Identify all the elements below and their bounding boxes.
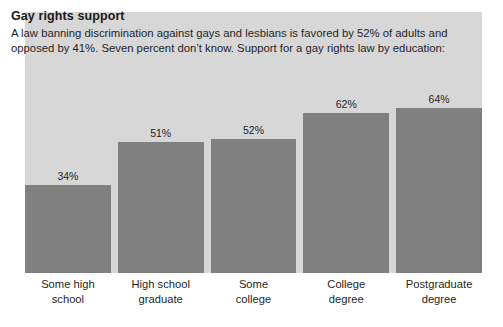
bar-high-school-graduate[interactable] [118,142,204,273]
bar-some-high-school[interactable] [25,185,111,273]
bar-slot-3: 52% [211,85,297,273]
x-axis-label-3-line-1: Some [211,277,297,292]
x-axis-label-2-line-1: High school [118,277,204,292]
chart-subtitle-line-2: opposed by 41%. Seven percent don’t know… [11,41,451,56]
x-axis-label-5-line-1: Postgraduate [396,277,482,292]
bar-some-college[interactable] [211,139,297,273]
bar-value-3: 52% [211,124,297,136]
bar-college-degree[interactable] [303,113,389,273]
bar-value-5: 64% [396,93,482,105]
x-axis-label-1-line-1: Some high [25,277,111,292]
bar-plot-area: 34% 51% 52% 62% 64% [25,85,482,273]
bar-slot-2: 51% [118,85,204,273]
x-axis-label-3: Some college [211,277,297,307]
chart-header: Gay rights support A law banning discrim… [11,9,451,55]
x-axis-labels: Some high school High school graduate So… [25,277,482,321]
chart-figure: Gay rights support A law banning discrim… [0,0,503,327]
bar-value-1: 34% [25,170,111,182]
chart-subtitle-line-1: A law banning discrimination against gay… [11,26,451,41]
x-axis-label-2-line-2: graduate [118,292,204,307]
bar-postgraduate-degree[interactable] [396,108,482,273]
bar-value-4: 62% [303,98,389,110]
bar-slot-1: 34% [25,85,111,273]
x-axis-label-4-line-2: degree [303,292,389,307]
bar-slot-5: 64% [396,85,482,273]
bar-value-2: 51% [118,127,204,139]
x-axis-label-4: College degree [303,277,389,307]
x-axis-label-4-line-1: College [303,277,389,292]
chart-title: Gay rights support [11,9,451,24]
x-axis-label-5: Postgraduate degree [396,277,482,307]
x-axis-label-1: Some high school [25,277,111,307]
bar-slot-4: 62% [303,85,389,273]
x-axis-label-3-line-2: college [211,292,297,307]
x-axis-label-2: High school graduate [118,277,204,307]
x-axis-label-5-line-2: degree [396,292,482,307]
x-axis-label-1-line-2: school [25,292,111,307]
